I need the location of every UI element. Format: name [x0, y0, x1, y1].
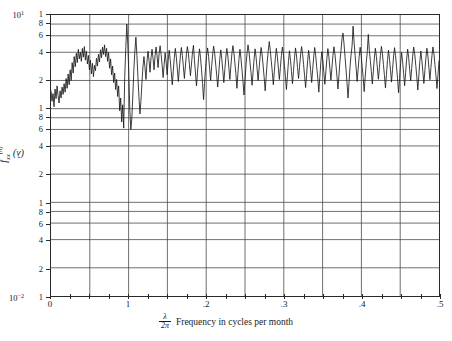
y-axis-title-f: f [0, 160, 9, 163]
y-tick-label: 1 [39, 104, 43, 113]
x-axis-tick-labels: 01.2.3.4.5 [0, 299, 452, 313]
x-tick-mark [265, 294, 266, 299]
x-tick-mark [284, 294, 285, 299]
x-tick-mark [167, 294, 168, 299]
y-tick-label: 1 [39, 198, 43, 207]
x-tick-mark [206, 294, 207, 299]
x-tick-mark [187, 294, 188, 299]
y-tick-label: 8 [39, 208, 43, 217]
x-tick-mark [440, 294, 441, 299]
y-tick-label: 1 [39, 10, 43, 19]
y-decade-top: 101 [12, 8, 24, 21]
y-axis-title-text: fxx(n)(λ) [0, 147, 22, 163]
y-axis-title-sup: (n) [0, 147, 3, 155]
x-axis-caption-text: Frequency in cycles per month [176, 317, 293, 327]
x-axis-caption: λ 2π Frequency in cycles per month [0, 313, 452, 330]
x-tick-label: 0 [48, 299, 53, 309]
y-axis-title-arg: (λ) [8, 149, 24, 160]
y-tick-label: 4 [39, 47, 43, 56]
x-tick-mark [401, 294, 402, 299]
y-decade-top-exponent: 1 [21, 9, 24, 16]
fraction-numerator: λ [161, 313, 168, 321]
y-tick-label: 2 [39, 170, 43, 179]
y-tick-label: 8 [39, 113, 43, 122]
x-tick-mark [148, 294, 149, 299]
x-tick-label: 1 [126, 299, 131, 309]
y-tick-label: 4 [39, 236, 43, 245]
y-axis-title: fxx(n)(λ) [2, 110, 16, 200]
x-tick-label: .2 [203, 299, 210, 309]
y-tick-label: 6 [39, 219, 43, 228]
x-tick-mark [89, 294, 90, 299]
y-tick-label: 6 [39, 125, 43, 134]
x-tick-label: .3 [281, 299, 288, 309]
x-tick-mark [362, 294, 363, 299]
fraction-denominator: 2π [159, 321, 171, 330]
y-tick-label: 2 [39, 264, 43, 273]
x-tick-mark [421, 294, 422, 299]
x-tick-mark [128, 294, 129, 299]
x-tick-mark [323, 294, 324, 299]
y-decade-bottom-exponent: −2 [17, 292, 24, 299]
x-tick-mark [245, 294, 246, 299]
x-tick-mark [343, 294, 344, 299]
x-tick-mark [109, 294, 110, 299]
y-tick-label: 4 [39, 142, 43, 151]
y-tick-label: 8 [39, 19, 43, 28]
plot-area [50, 14, 440, 297]
y-tick-label: 6 [39, 31, 43, 40]
x-tick-label: .5 [437, 299, 444, 309]
figure-root: 124681246812468110110−2 fxx(n)(λ) 01.2.3… [0, 0, 452, 341]
x-tick-mark [304, 294, 305, 299]
x-tick-mark [226, 294, 227, 299]
y-decade-top-base: 10 [12, 10, 21, 20]
periodogram-curve [51, 15, 439, 296]
x-tick-mark [382, 294, 383, 299]
x-tick-label: .4 [359, 299, 366, 309]
x-tick-mark [50, 294, 51, 299]
frequency-fraction: λ 2π [159, 313, 171, 330]
x-tick-mark [70, 294, 71, 299]
y-tick-label: 2 [39, 76, 43, 85]
